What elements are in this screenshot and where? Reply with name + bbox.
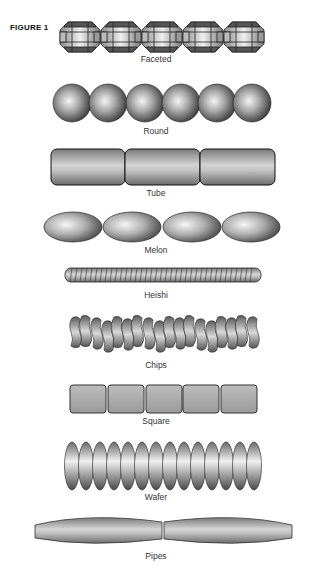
caption-wafer: Wafer xyxy=(0,492,312,502)
wafer-beads xyxy=(65,442,262,490)
round-beads xyxy=(53,84,271,122)
caption-melon: Melon xyxy=(0,245,312,255)
caption-faceted: Faceted xyxy=(0,54,312,64)
caption-pipes: Pipes xyxy=(0,551,312,561)
faceted-beads xyxy=(60,22,264,52)
chip-beads xyxy=(70,315,260,352)
square-beads xyxy=(70,385,257,413)
caption-square: Square xyxy=(0,416,312,426)
caption-chips: Chips xyxy=(0,360,312,370)
caption-tube: Tube xyxy=(0,188,312,198)
pipe-beads xyxy=(35,518,292,544)
tube-beads xyxy=(51,149,275,185)
heishi-bead xyxy=(65,268,261,282)
caption-round: Round xyxy=(0,126,312,136)
melon-beads xyxy=(44,212,280,242)
caption-heishi: Heishi xyxy=(0,290,312,300)
